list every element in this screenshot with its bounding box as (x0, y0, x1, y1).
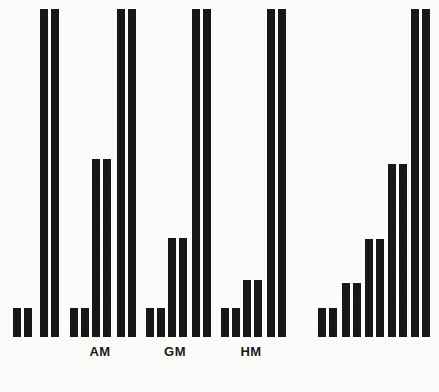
bar (128, 9, 136, 337)
bar (179, 238, 187, 337)
bar (411, 9, 419, 337)
bar (117, 9, 125, 337)
bar-chart-figure: AMGMHM (0, 0, 439, 392)
bar (51, 9, 59, 337)
bar (365, 239, 373, 337)
group-label-am: AM (89, 344, 110, 359)
bar (329, 308, 337, 337)
bar (81, 308, 89, 337)
bar (422, 9, 430, 337)
bar (278, 9, 286, 337)
bar (388, 164, 396, 337)
plot-area: AMGMHM (0, 0, 439, 392)
bar (232, 308, 240, 337)
bar (168, 238, 176, 337)
bar (203, 9, 211, 337)
bar (318, 308, 326, 337)
bar (92, 159, 100, 337)
bar (103, 159, 111, 337)
bar (70, 308, 78, 337)
bar (192, 9, 200, 337)
bar (342, 283, 350, 337)
bar (146, 308, 154, 337)
bar (157, 308, 165, 337)
bar (254, 280, 262, 337)
bar (243, 280, 251, 337)
group-label-hm: HM (240, 344, 261, 359)
group-label-gm: GM (164, 344, 186, 359)
bar (399, 164, 407, 337)
bar (24, 308, 32, 337)
bar (267, 9, 275, 337)
bar (376, 239, 384, 337)
bar (13, 308, 21, 337)
bar (221, 308, 229, 337)
bar (353, 283, 361, 337)
bar (40, 9, 48, 337)
